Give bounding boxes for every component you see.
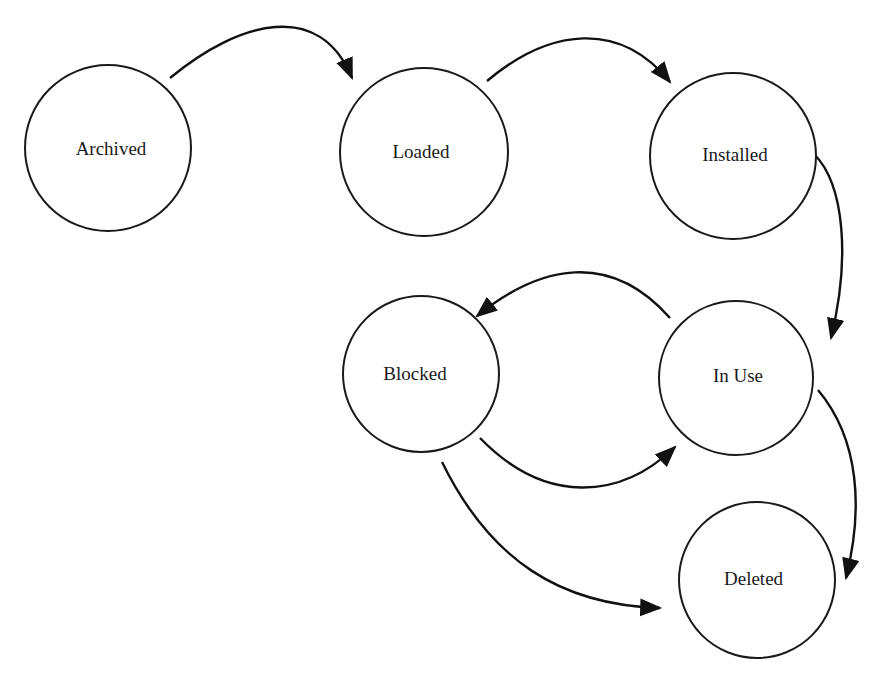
edge-archived-to-loaded [170,27,352,78]
edge-loaded-to-installed [487,38,670,82]
edge-in-use-to-blocked [477,272,670,318]
state-label: Loaded [393,141,450,162]
state-node-installed: Installed [650,73,816,239]
state-node-archived: Archived [25,65,191,231]
state-label: Blocked [383,363,447,384]
state-label: Archived [76,138,147,159]
state-node-loaded: Loaded [340,68,508,236]
state-node-deleted: Deleted [679,502,835,658]
edge-blocked-to-in-use [480,438,675,488]
state-node-blocked: Blocked [343,296,499,452]
edge-installed-to-in-use [814,154,842,338]
state-label: Deleted [724,568,784,589]
state-node-in-use: In Use [659,301,813,455]
state-label: In Use [713,365,763,386]
state-diagram: Archived Loaded Installed Blocked In Use… [0,0,888,679]
state-label: Installed [702,144,768,165]
